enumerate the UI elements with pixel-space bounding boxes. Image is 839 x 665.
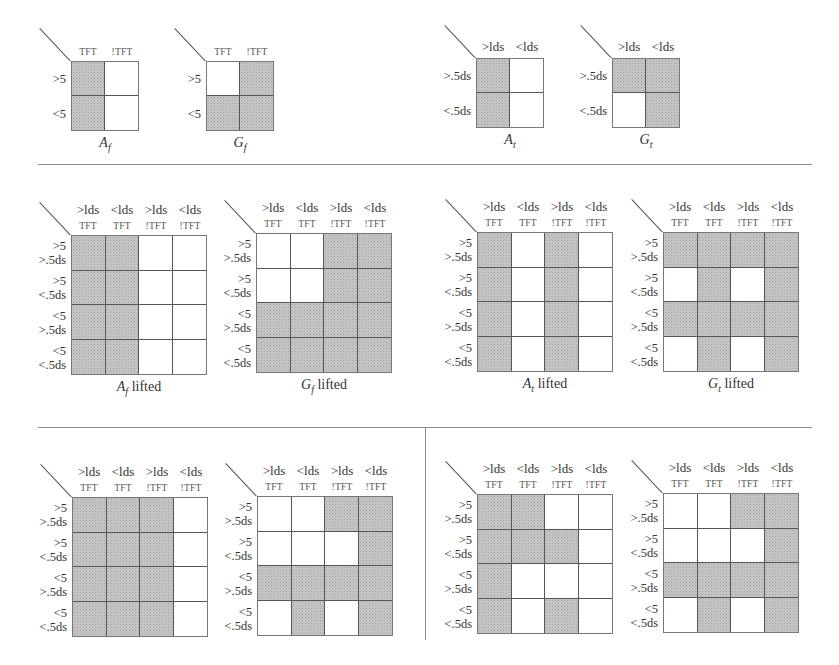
- shaded-cell: [698, 563, 732, 598]
- shaded-cell: [292, 566, 326, 601]
- empty-cell: [664, 598, 698, 633]
- row-header: >5<.5ds: [444, 271, 472, 299]
- shaded-cell: [358, 303, 392, 338]
- truth-grid: [71, 235, 207, 375]
- row-header: >5>.5ds: [630, 236, 658, 264]
- row-header-line: >.5ds: [630, 511, 658, 525]
- empty-cell: [174, 567, 208, 602]
- column-header-primary: <lds: [573, 461, 619, 477]
- shaded-cell: [73, 567, 107, 602]
- empty-cell: [139, 305, 173, 340]
- empty-cell: [139, 271, 173, 306]
- shaded-cell: [73, 533, 107, 568]
- empty-cell: [579, 233, 613, 268]
- shaded-cell: [731, 302, 765, 337]
- caption-subscript: t: [650, 139, 653, 150]
- shaded-cell: [106, 271, 140, 306]
- shaded-cell: [545, 233, 579, 268]
- row-header-line: >.5ds: [39, 515, 67, 529]
- row-header-line: >5: [444, 533, 472, 547]
- row-header-line: <5: [630, 306, 658, 320]
- shaded-cell: [72, 236, 106, 271]
- column-header-primary: <lds: [168, 464, 214, 480]
- shaded-cell: [107, 602, 141, 637]
- row-header-line: <.5ds: [443, 104, 471, 118]
- row-header-line: <.5ds: [630, 616, 658, 630]
- column-header-secondary: !TFT: [354, 219, 396, 229]
- shaded-cell: [477, 59, 510, 93]
- shaded-cell: [478, 337, 512, 372]
- shaded-cell: [698, 302, 732, 337]
- empty-cell: [579, 495, 613, 530]
- shaded-cell: [291, 338, 325, 373]
- column-header-secondary: !TFT: [355, 482, 397, 492]
- row-header-line: >.5ds: [224, 514, 252, 528]
- shaded-cell: [258, 566, 292, 601]
- panel-caption: At lifted: [457, 376, 633, 394]
- row-header-line: <5: [39, 606, 67, 620]
- empty-cell: [512, 233, 546, 268]
- empty-cell: [325, 532, 359, 567]
- empty-cell: [664, 529, 698, 564]
- shaded-cell: [358, 269, 392, 304]
- shaded-cell: [512, 530, 546, 565]
- truth-grid: [71, 61, 139, 131]
- shaded-cell: [545, 599, 579, 634]
- empty-cell: [664, 494, 698, 529]
- caption-symbol: G: [301, 377, 311, 392]
- row-header: <.5ds: [443, 104, 471, 118]
- row-header: >5<.5ds: [39, 536, 67, 564]
- shaded-cell: [478, 599, 512, 634]
- row-header-line: >5: [53, 72, 66, 86]
- truth-grid: [476, 58, 544, 128]
- column-header-primary: <lds: [504, 39, 550, 55]
- row-header-line: >5: [39, 536, 67, 550]
- shaded-cell: [292, 601, 326, 636]
- truth-grid: [477, 232, 613, 372]
- empty-cell: [173, 340, 207, 375]
- shaded-cell: [765, 494, 799, 529]
- row-header-line: >.5ds: [444, 250, 472, 264]
- row-header-line: <.5ds: [444, 617, 472, 631]
- shaded-cell: [140, 498, 174, 533]
- truth-grid: [612, 58, 680, 128]
- column-header-primary: <lds: [353, 463, 399, 479]
- panel-caption: Gt: [592, 132, 700, 150]
- row-header: <5>.5ds: [38, 309, 66, 337]
- shaded-cell: [664, 233, 698, 268]
- panel-caption: Af: [51, 135, 159, 153]
- empty-cell: [207, 62, 240, 96]
- shaded-cell: [477, 93, 510, 127]
- shaded-cell: [545, 530, 579, 565]
- empty-cell: [731, 529, 765, 564]
- row-header: >5>.5ds: [630, 497, 658, 525]
- column-header-primary: <lds: [759, 199, 805, 215]
- empty-cell: [512, 337, 546, 372]
- row-header: <5>.5ds: [444, 306, 472, 334]
- column-header-secondary: !TFT: [575, 480, 617, 490]
- empty-cell: [613, 93, 646, 127]
- empty-cell: [698, 529, 732, 564]
- shaded-cell: [545, 268, 579, 303]
- empty-cell: [731, 337, 765, 372]
- shaded-cell: [207, 96, 240, 130]
- shaded-cell: [698, 268, 732, 303]
- row-header-line: >5: [630, 497, 658, 511]
- column-header-primary: <lds: [573, 199, 619, 215]
- shaded-cell: [478, 495, 512, 530]
- shaded-cell: [359, 532, 393, 567]
- truth-grid: [256, 233, 392, 373]
- panel-caption: Gf: [186, 135, 294, 153]
- shaded-cell: [358, 234, 392, 269]
- empty-cell: [173, 305, 207, 340]
- row-header-line: <.5ds: [579, 104, 607, 118]
- row-header-line: <5: [38, 344, 66, 358]
- caption-suffix: lifted: [314, 377, 347, 392]
- empty-cell: [512, 599, 546, 634]
- row-header-line: <.5ds: [444, 355, 472, 369]
- row-header-line: >.5ds: [223, 251, 251, 265]
- top-divider: [38, 164, 812, 165]
- shaded-cell: [107, 567, 141, 602]
- row-header: <5<.5ds: [39, 606, 67, 634]
- shaded-cell: [359, 497, 393, 532]
